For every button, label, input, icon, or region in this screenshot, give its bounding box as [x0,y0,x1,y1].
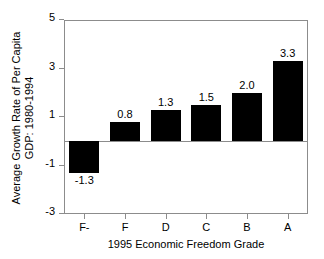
x-axis-tick [125,214,126,219]
y-tick-label: -3 [45,206,55,217]
bar-value-label: 1.5 [183,91,229,103]
x-axis-tick [84,214,85,219]
zero-baseline [64,141,308,142]
bar-value-label: 0.8 [102,108,148,120]
x-axis-tick-label: F- [61,221,107,233]
y-tick-mark [59,213,64,214]
y-axis-title-line2: GDP: 1980-1994 [23,31,36,204]
bar [110,122,140,141]
x-axis-tick-label: C [183,221,229,233]
bar [273,61,303,141]
bar-value-label: 1.3 [143,96,189,108]
y-tick-label: 5 [49,12,55,23]
bar-value-label: 3.3 [265,47,311,59]
y-axis-title-line1: Average Growth Rate of Per Capita [10,31,23,204]
x-axis-tick [166,214,167,219]
x-axis-title: 1995 Economic Freedom Grade [64,238,308,251]
bar [151,110,181,142]
bar [232,93,262,142]
y-tick-label: 3 [49,61,55,72]
bar-chart: Average Growth Rate of Per Capita GDP: 1… [0,0,324,259]
y-tick-mark [59,165,64,166]
x-axis-tick-label: B [224,221,270,233]
y-tick-mark [59,68,64,69]
bar [191,105,221,141]
y-axis-title: Average Growth Rate of Per Capita GDP: 1… [0,0,46,235]
x-axis-tick [206,214,207,219]
x-axis-tick [288,214,289,219]
x-axis-tick-label: F [102,221,148,233]
x-axis-tick [247,214,248,219]
y-tick-mark [59,19,64,20]
bar-value-label: -1.3 [61,174,107,186]
y-tick-label: -1 [45,158,55,169]
bar [69,141,99,173]
y-tick-label: 1 [49,109,55,120]
x-axis-tick-label: A [265,221,311,233]
bar-value-label: 2.0 [224,79,270,91]
x-axis-tick-label: D [143,221,189,233]
y-tick-mark [59,116,64,117]
